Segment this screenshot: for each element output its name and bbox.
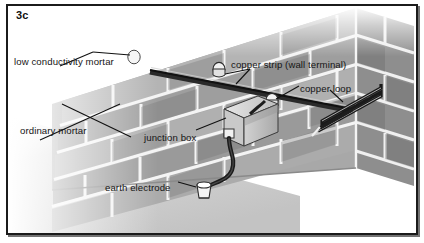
label-copper-loop: copper loop [300,84,351,94]
label-copper-strip-wall-terminal: copper strip (wall terminal) [231,60,346,70]
strip-end-fixing [128,50,140,64]
label-earth-electrode: earth electrode [105,183,171,193]
figure-id-label: 3c [16,9,29,21]
wall-terminal-fixing-left [213,62,225,77]
illustration-scene [0,0,424,243]
scene-svg [0,0,424,243]
figure-3c: 3c low conductivity mortar copper strip … [0,0,424,243]
left-fade [8,6,158,233]
label-junction-box: junction box [144,133,196,143]
label-ordinary-mortar: ordinary mortar [20,126,87,136]
label-low-conductivity-mortar: low conductivity mortar [14,57,114,67]
earth-electrode [197,182,211,198]
